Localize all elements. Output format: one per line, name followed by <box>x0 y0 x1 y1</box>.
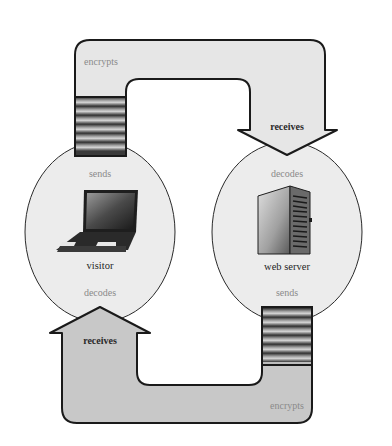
bottom-arrow-encryption-stripes <box>262 307 312 365</box>
bottom-arrow-end-label: receives <box>83 335 117 347</box>
encryption-cycle-diagram <box>0 0 392 446</box>
top-arrow-encryption-stripes <box>75 97 126 156</box>
visitor-top-action: sends <box>89 168 111 180</box>
server-tower-icon <box>258 186 312 254</box>
web-server-top-action: decodes <box>271 168 303 180</box>
visitor-label: visitor <box>87 260 114 272</box>
top-arrow-end-label: receives <box>270 121 304 133</box>
bottom-arrow-start-label: encrypts <box>270 400 304 412</box>
web-server-bottom-action: sends <box>276 287 298 299</box>
visitor-bottom-action: decodes <box>84 287 116 299</box>
web-server-label: web server <box>264 261 310 273</box>
top-arrow-start-label: encrypts <box>84 56 118 68</box>
